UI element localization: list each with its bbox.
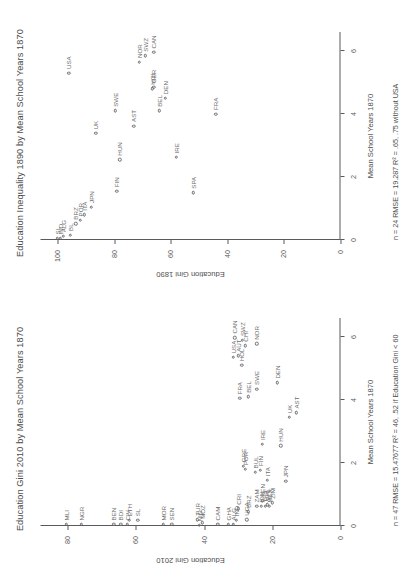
scatter-point (231, 523, 234, 526)
scatter-point (275, 381, 278, 384)
scatter-point (68, 233, 71, 236)
chart-annotation-bottom: n = 24 RMSE = 19.287 R² = .65, .75 witho… (390, 10, 399, 240)
scatter-point-label: SWZ (141, 38, 148, 52)
x-tick-mark (340, 336, 344, 337)
chart-title-top: Education Gini 2010 by Mean School Years… (14, 286, 24, 572)
scatter-point (234, 519, 237, 522)
y-tick-mark (204, 526, 205, 530)
scatter-point (197, 524, 200, 527)
y-tick-mark (57, 240, 58, 244)
x-axis-label-top: Mean School Years 1870 (365, 318, 374, 526)
scatter-point (246, 395, 249, 398)
scatter-point (238, 397, 241, 400)
scatter-point (233, 336, 236, 339)
y-tick-mark (227, 240, 228, 244)
y-tick-mark (114, 240, 115, 244)
scatter-point (174, 156, 177, 159)
scatter-point-label: FRA (236, 382, 243, 394)
scatter-point (236, 507, 239, 510)
y-tick-label: 80 (63, 536, 72, 544)
scatter-point (279, 444, 282, 447)
scatter-point (113, 109, 116, 112)
scatter-point (137, 60, 140, 63)
scatter-point (118, 158, 121, 161)
y-tick-mark (170, 240, 171, 244)
scatter-point (231, 356, 234, 359)
scatter-point (115, 189, 118, 192)
scatter-point (143, 54, 146, 57)
scatter-point (93, 132, 96, 135)
scatter-point (79, 523, 82, 526)
scatter-point (64, 523, 67, 526)
scatter-point-label: JPN (282, 466, 289, 478)
scatter-point-label: SEN (168, 508, 175, 521)
x-tick-label: 6 (348, 335, 357, 339)
x-tick-label: 2 (348, 175, 357, 179)
y-axis-label-top: Education Gini 2010 (156, 556, 224, 565)
scatter-point (214, 112, 217, 115)
y-tick-label: 20 (267, 536, 276, 544)
scatter-point (58, 237, 61, 240)
y-tick-label: 40 (199, 536, 208, 544)
scatter-point-label: AST (130, 110, 137, 122)
chart-annotation-top: n = 47 RMSE = 15.47677 R² = 46, .52 if E… (390, 296, 399, 526)
y-tick-mark (340, 526, 341, 530)
scatter-point (260, 442, 263, 445)
scatter-point-label: IRE (258, 430, 265, 440)
scatter-point-label: UK (285, 405, 292, 414)
scatter-point (89, 205, 92, 208)
scatter-point-label: DEN (161, 81, 168, 94)
plot-area-bottom: Mean School Years 1870 Education Gini 18… (40, 32, 340, 240)
scatter-point-label: BL (66, 223, 73, 231)
x-axis-line-top (339, 318, 340, 526)
scatter-point-label: SL (134, 509, 141, 517)
scatter-point (255, 342, 258, 345)
x-tick-mark (340, 462, 344, 463)
scatter-point (163, 96, 166, 99)
y-tick-label: 80 (109, 250, 118, 258)
scatter-point-label: SWE (253, 371, 260, 385)
x-tick-label: 4 (348, 112, 357, 116)
scatter-point (258, 468, 261, 471)
scatter-point-label: ITA (80, 202, 87, 211)
x-tick-mark (340, 50, 344, 51)
scatter-point (265, 479, 268, 482)
y-tick-mark (340, 240, 341, 244)
chart-panel-education-gini-2010: Education Gini 2010 by Mean School Years… (0, 286, 413, 572)
scatter-point-label: BRZ (244, 495, 251, 507)
scatter-point-label: CAM (214, 507, 221, 521)
x-tick-mark (340, 176, 344, 177)
scatter-point (243, 468, 246, 471)
scatter-point (259, 505, 262, 508)
y-tick-label: 0 (336, 536, 345, 540)
y-tick-label: 60 (166, 250, 175, 258)
scatter-point (161, 523, 164, 526)
scatter-point-label: SWE (112, 93, 119, 107)
scatter-point (270, 501, 273, 504)
scatter-point-label: NGR (77, 507, 84, 521)
scatter-point (74, 222, 77, 225)
x-tick-label: 0 (348, 238, 357, 242)
chart-title-bottom: Education Inequality 1890 by Mean School… (14, 0, 24, 286)
scatter-point (240, 338, 243, 341)
y-axis-line-top (40, 525, 340, 526)
scatter-point (67, 71, 70, 74)
scatter-point-label: FRA (212, 98, 219, 110)
plot-area-top: Mean School Years 1870 Education Gini 20… (40, 318, 340, 526)
y-axis-line-bottom (40, 239, 340, 240)
scatter-point (245, 518, 248, 521)
scatter-point-label: BEN (110, 508, 117, 521)
scatter-point-label: FIN (256, 456, 263, 466)
scatter-point-label: BDI (117, 510, 124, 520)
x-tick-mark (340, 113, 344, 114)
scatter-point-label: AST (292, 397, 299, 409)
scatter-point (125, 523, 128, 526)
scatter-point (241, 464, 244, 467)
scatter-point-label: IND (56, 224, 63, 235)
scatter-point-label: IRE (172, 143, 179, 153)
scatter-point-label: TUR (193, 503, 200, 516)
y-tick-mark (135, 526, 136, 530)
scatter-point-label: NOR (253, 326, 260, 340)
scatter-point-label: DEN (273, 366, 280, 379)
scatter-point-label: GER (150, 70, 157, 83)
